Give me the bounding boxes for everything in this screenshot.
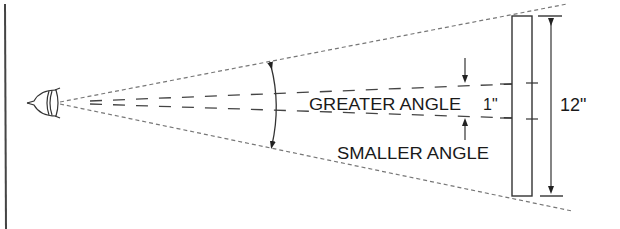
smaller-angle-label: SMALLER ANGLE [337, 145, 489, 162]
eye-icon [27, 88, 60, 118]
visual-angle-diagram: GREATER ANGLE SMALLER ANGLE 1" 12" [0, 0, 620, 229]
greater-angle-label: GREATER ANGLE [309, 96, 461, 113]
wide-cone-upper-line [60, 4, 567, 102]
angle-arc-double-arrow [271, 66, 276, 145]
twelve-inch-label: 12" [560, 95, 586, 115]
left-border-line [5, 4, 6, 229]
one-inch-label: 1" [483, 96, 498, 113]
wide-cone-lower-line [60, 104, 572, 211]
target-object-bar [512, 16, 532, 196]
